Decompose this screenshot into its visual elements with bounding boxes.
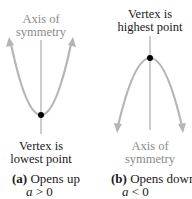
vertex-label-a: Vertex is lowest point [1,140,81,166]
arrow-down-right-icon [178,123,186,133]
axis-label-b-line2: symmetry [110,153,190,166]
vertex-point-a [38,112,44,118]
caption-a-letter: (a) [12,171,27,186]
vertex-point-b [147,55,153,61]
axis-label-a-line2: symmetry [1,26,81,39]
condition-b: a < 0 [122,185,149,198]
condition-a: a > 0 [26,185,53,198]
axis-label-b: Axis of symmetry [110,140,190,166]
arrow-down-left-icon [114,123,122,133]
condition-a-rest: > 0 [33,184,53,199]
panel-a-graph [6,37,76,134]
panel-b-graph [114,36,186,133]
axis-label-a: Axis of symmetry [1,13,81,39]
condition-b-rest: < 0 [129,184,149,199]
vertex-label-b: Vertex is highest point [108,8,192,34]
vertex-label-a-line2: lowest point [1,153,81,166]
vertex-label-b-line2: highest point [108,21,192,34]
